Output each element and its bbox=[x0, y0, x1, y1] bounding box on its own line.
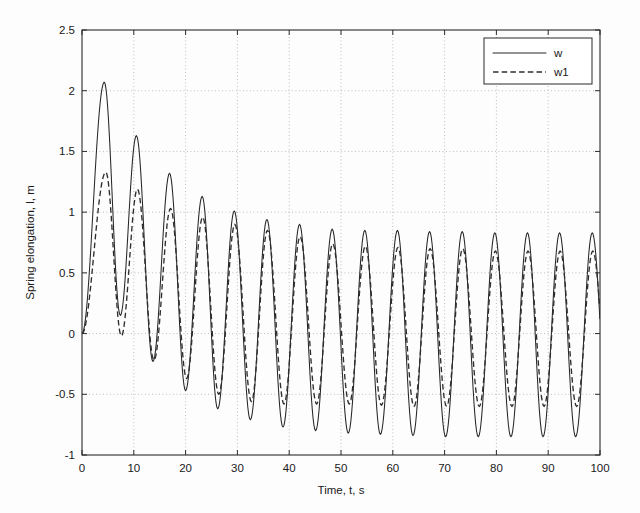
chart-legend[interactable]: ww1 bbox=[484, 38, 592, 84]
x-tick-label: 30 bbox=[231, 462, 244, 474]
legend-box bbox=[484, 38, 592, 84]
x-tick-label: 20 bbox=[179, 462, 192, 474]
legend-label-w1: w1 bbox=[553, 66, 569, 78]
figure-canvas: 0102030405060708090100-1-0.500.511.522.5… bbox=[0, 0, 640, 513]
y-tick-label: 2 bbox=[69, 85, 75, 97]
tick-labels-layer: 0102030405060708090100-1-0.500.511.522.5 bbox=[55, 24, 609, 474]
y-tick-label: 0.5 bbox=[59, 267, 75, 279]
y-tick-label: 0 bbox=[69, 328, 75, 340]
y-tick-label: 1.5 bbox=[59, 145, 75, 157]
x-tick-label: 0 bbox=[79, 462, 85, 474]
x-tick-label: 90 bbox=[542, 462, 555, 474]
chart-plot: 0102030405060708090100-1-0.500.511.522.5… bbox=[0, 0, 640, 513]
y-axis-label: Spring elongation, l, m bbox=[24, 185, 36, 299]
y-tick-label: -0.5 bbox=[55, 388, 75, 400]
x-tick-label: 40 bbox=[283, 462, 296, 474]
x-tick-label: 80 bbox=[490, 462, 503, 474]
y-tick-label: -1 bbox=[65, 449, 75, 461]
x-tick-label: 10 bbox=[127, 462, 140, 474]
x-tick-label: 100 bbox=[590, 462, 609, 474]
grid-layer bbox=[82, 30, 600, 455]
legend-label-w: w bbox=[553, 47, 563, 59]
x-axis-label: Time, t, s bbox=[318, 484, 365, 496]
y-tick-label: 2.5 bbox=[59, 24, 75, 36]
x-tick-label: 50 bbox=[335, 462, 348, 474]
x-tick-label: 60 bbox=[386, 462, 399, 474]
x-tick-label: 70 bbox=[438, 462, 451, 474]
y-tick-label: 1 bbox=[69, 206, 75, 218]
